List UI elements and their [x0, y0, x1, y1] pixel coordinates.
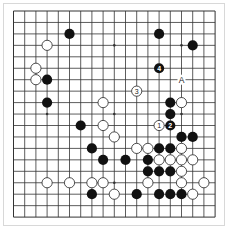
black-stone — [64, 29, 74, 39]
black-stone — [87, 189, 97, 199]
white-stone — [64, 178, 74, 188]
black-stone — [176, 189, 186, 199]
black-stone — [154, 29, 164, 39]
black-stone — [188, 40, 198, 50]
star-point — [180, 113, 183, 116]
black-stone — [143, 166, 153, 176]
black-stone — [98, 155, 108, 165]
white-stone — [176, 166, 186, 176]
star-point — [113, 113, 116, 116]
black-stone — [165, 189, 175, 199]
white-stone — [132, 143, 142, 153]
white-stone — [31, 75, 41, 85]
white-stone — [98, 98, 108, 108]
black-stone — [165, 98, 175, 108]
star-point — [113, 181, 116, 184]
move-number-1: 1 — [157, 122, 161, 129]
white-stone — [188, 155, 198, 165]
white-stone — [143, 143, 153, 153]
go-board: A4231 — [0, 0, 229, 230]
white-stone — [199, 178, 209, 188]
black-stone — [188, 132, 198, 142]
black-stone — [42, 98, 52, 108]
black-stone — [154, 189, 164, 199]
black-stone — [120, 155, 130, 165]
black-stone — [87, 143, 97, 153]
white-stone — [176, 98, 186, 108]
black-stone — [76, 120, 86, 130]
black-stone — [143, 155, 153, 165]
white-stone — [154, 155, 164, 165]
white-stone — [87, 178, 97, 188]
white-stone — [42, 178, 52, 188]
black-stone — [154, 166, 164, 176]
white-stone — [176, 155, 186, 165]
move-number-2: 2 — [168, 122, 172, 129]
star-point — [113, 44, 116, 47]
white-stone — [98, 178, 108, 188]
white-stone — [188, 189, 198, 199]
white-stone — [176, 143, 186, 153]
point-label-a: A — [179, 75, 185, 85]
star-point — [46, 113, 49, 116]
star-point — [180, 44, 183, 47]
white-stone — [109, 132, 119, 142]
move-number-4: 4 — [157, 65, 161, 72]
black-stone — [132, 189, 142, 199]
white-stone — [109, 189, 119, 199]
black-stone — [165, 109, 175, 119]
black-stone — [165, 166, 175, 176]
move-number-3: 3 — [135, 88, 139, 95]
white-stone — [31, 63, 41, 73]
white-stone — [42, 40, 52, 50]
black-stone — [42, 75, 52, 85]
black-stone — [165, 143, 175, 153]
white-stone — [165, 155, 175, 165]
white-stone — [98, 120, 108, 130]
white-stone — [143, 178, 153, 188]
black-stone — [154, 143, 164, 153]
black-stone — [176, 132, 186, 142]
white-stone — [176, 178, 186, 188]
